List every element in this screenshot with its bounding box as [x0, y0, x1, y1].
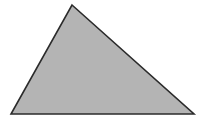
figure-canvas: [0, 0, 198, 121]
triangle-svg: [0, 0, 198, 121]
